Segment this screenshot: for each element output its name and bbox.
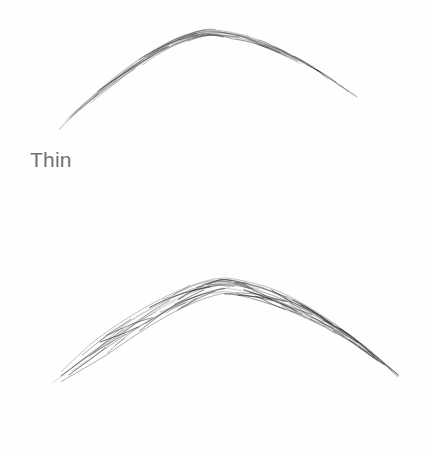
medium-eyebrow-illustration — [0, 250, 430, 410]
eyebrow-reference-page: Thin Medium — [0, 0, 430, 450]
eyebrow-figure-medium: Medium — [0, 250, 430, 450]
eyebrow-figure-thin: Thin — [0, 0, 430, 180]
thin-eyebrow-illustration — [0, 0, 430, 150]
eyebrow-label-thin: Thin — [30, 149, 72, 170]
